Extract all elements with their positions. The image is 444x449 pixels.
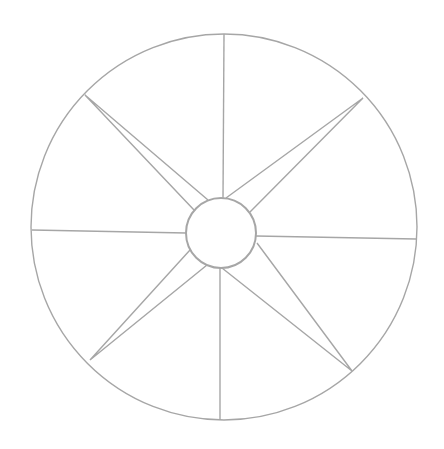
compass-star-diagram	[0, 0, 444, 449]
star-point-northwest	[85, 95, 208, 210]
inner-circle	[186, 198, 256, 268]
spoke-east	[256, 236, 416, 239]
star-point-northeast	[226, 98, 363, 212]
spoke-north	[223, 34, 224, 198]
spoke-west	[32, 230, 186, 233]
star-point-southwest	[90, 250, 207, 360]
